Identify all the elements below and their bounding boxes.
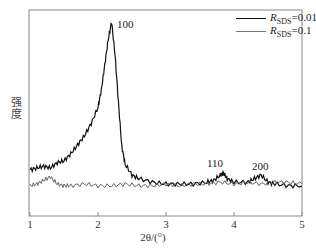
x-tick-label: 3 <box>163 218 169 230</box>
legend-swatch <box>236 18 266 19</box>
x-tick-label: 5 <box>299 218 305 230</box>
x-tick-label: 2 <box>95 218 101 230</box>
peak-label-200: 200 <box>252 160 269 172</box>
legend-label: RSDS=0.1 <box>270 24 311 39</box>
x-axis-ticks <box>30 212 302 216</box>
peak-label-100: 100 <box>117 18 134 30</box>
legend-item-rsds-0-1: RSDS=0.1 <box>236 25 316 38</box>
legend-swatch <box>236 31 266 32</box>
y-axis-label: 强度 <box>7 96 23 120</box>
legend: RSDS=0.01 RSDS=0.1 <box>236 12 316 38</box>
x-axis-label: 2θ/(°) <box>140 231 166 243</box>
peak-label-110: 110 <box>207 157 223 169</box>
x-tick-label: 1 <box>27 218 33 230</box>
x-tick-label: 4 <box>231 218 237 230</box>
